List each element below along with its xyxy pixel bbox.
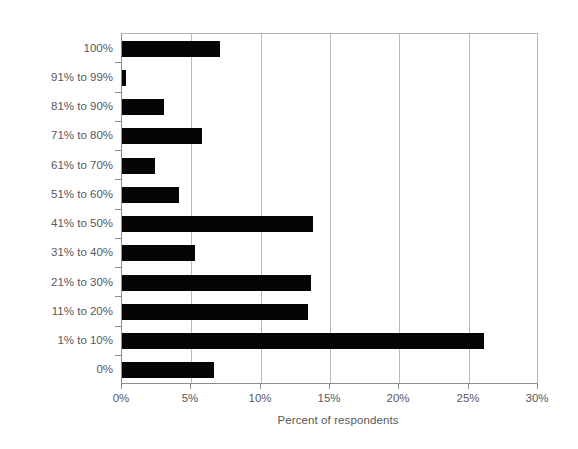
bar-series <box>122 34 537 383</box>
y-axis-tick <box>115 267 121 268</box>
x-axis-tick <box>537 384 538 389</box>
y-axis-tick <box>115 355 121 356</box>
bar <box>122 216 313 232</box>
bar-row <box>122 34 537 63</box>
bar <box>122 362 214 378</box>
y-axis-tick <box>115 62 121 63</box>
plot-area <box>121 33 538 384</box>
bar-row <box>122 327 537 356</box>
x-axis-title-text: Percent of respondents <box>277 414 398 426</box>
y-axis-tick-label: 41% to 50% <box>0 217 113 229</box>
bar <box>122 275 311 291</box>
x-axis-tick-label: 5% <box>160 391 220 405</box>
x-axis-tick <box>260 384 261 389</box>
x-axis-tick <box>121 384 122 389</box>
y-axis-tick-label: 21% to 30% <box>0 276 113 288</box>
y-axis-tick-label: 51% to 60% <box>0 188 113 200</box>
bar <box>122 245 195 261</box>
x-axis-tick <box>190 384 191 389</box>
bar-row <box>122 151 537 180</box>
x-axis-title: Percent of respondents <box>0 414 578 426</box>
bar <box>122 41 220 57</box>
y-axis-tick <box>115 92 121 93</box>
bar-row <box>122 356 537 385</box>
y-axis-tick <box>115 150 121 151</box>
bar-row <box>122 122 537 151</box>
bar <box>122 99 164 115</box>
y-axis-tick <box>115 209 121 210</box>
y-axis-tick <box>115 296 121 297</box>
bar <box>122 128 202 144</box>
y-axis-tick <box>115 326 121 327</box>
x-axis-tick <box>398 384 399 389</box>
bar <box>122 304 308 320</box>
y-axis-tick-label: 1% to 10% <box>0 334 113 346</box>
y-axis-tick <box>115 179 121 180</box>
x-axis-tick-label: 15% <box>299 391 359 405</box>
y-axis-tick-label: 11% to 20% <box>0 305 113 317</box>
y-axis-tick-label: 0% <box>0 363 113 375</box>
bar-row <box>122 239 537 268</box>
y-axis-tick-label: 100% <box>0 42 113 54</box>
bar-row <box>122 93 537 122</box>
bar-row <box>122 297 537 326</box>
y-axis-tick <box>115 238 121 239</box>
bar-row <box>122 180 537 209</box>
x-axis-tick-label: 10% <box>230 391 290 405</box>
bar-row <box>122 210 537 239</box>
y-axis-tick-label: 81% to 90% <box>0 100 113 112</box>
bar <box>122 187 179 203</box>
x-axis-tick-label: 25% <box>438 391 498 405</box>
bar-chart: 100%91% to 99%81% to 90%71% to 80%61% to… <box>0 0 578 449</box>
bar <box>122 70 126 86</box>
y-axis-tick-label: 91% to 99% <box>0 71 113 83</box>
bar-row <box>122 63 537 92</box>
y-axis-labels: 100%91% to 99%81% to 90%71% to 80%61% to… <box>0 33 113 384</box>
y-axis-tick-label: 71% to 80% <box>0 129 113 141</box>
x-axis-tick <box>468 384 469 389</box>
x-axis-tick-label: 20% <box>368 391 428 405</box>
x-axis-tick-label: 30% <box>507 391 567 405</box>
bar <box>122 158 155 174</box>
bar <box>122 333 484 349</box>
x-axis-tick-label: 0% <box>91 391 151 405</box>
y-axis-tick <box>115 121 121 122</box>
x-axis-tick <box>329 384 330 389</box>
y-axis-tick-label: 31% to 40% <box>0 246 113 258</box>
y-axis-tick-label: 61% to 70% <box>0 159 113 171</box>
bar-row <box>122 268 537 297</box>
